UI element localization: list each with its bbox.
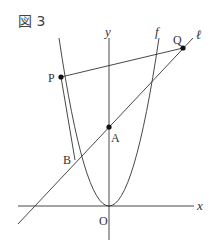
y-axis-label: y [103,24,111,39]
line-l [18,38,193,224]
line-l-label: ℓ [196,27,202,42]
point-a [106,124,111,129]
point-a-label: A [111,131,120,145]
segment-pq [61,48,183,77]
point-q-label: Q [173,33,182,47]
point-b-label: B [63,153,71,167]
figure-title: 図 3 [18,13,45,29]
x-axis-label: x [196,198,203,213]
figure-3: 図 3 y x f ℓ O P Q A B [0,0,217,248]
origin-label: O [99,214,108,228]
point-p [58,74,63,79]
diagram-svg: 図 3 y x f ℓ O P Q A B [0,0,217,248]
curve-f-label: f [155,24,161,39]
point-p-label: P [48,71,55,85]
